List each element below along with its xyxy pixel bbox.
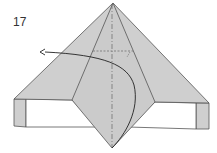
step-number: 17 — [13, 15, 26, 29]
origami-diagram: 17 — [0, 0, 217, 153]
diagram-canvas — [0, 0, 217, 153]
left-side-panel — [14, 99, 26, 127]
arrowhead-icon — [40, 49, 45, 55]
right-side-panel — [196, 103, 209, 129]
